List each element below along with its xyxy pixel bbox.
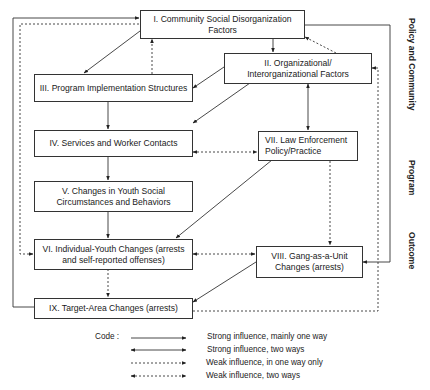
- side-label-outcome: Outcome: [407, 232, 417, 269]
- box-ii-label: II. Organizational/ Interorganizational …: [229, 58, 367, 80]
- legend-label-strong-two-ways: Strong influence, two ways: [207, 345, 304, 354]
- box-iv-services-worker-contacts: IV. Services and Worker Contacts: [34, 130, 193, 157]
- legend-label-weak-one-way: Weak influence, in one way only: [206, 358, 323, 367]
- arrow-ii-to-iii: [193, 67, 224, 88]
- box-i-label: I. Community Social Disorganization Fact…: [145, 14, 300, 36]
- box-iii-program-implementation: III. Program Implementation Structures: [34, 74, 193, 102]
- box-vi-label: VI. Individual-Youth Changes (arrests an…: [39, 244, 188, 266]
- box-ix-target-area-changes: IX. Target-Area Changes (arrests): [34, 298, 193, 319]
- box-ix-label: IX. Target-Area Changes (arrests): [49, 303, 178, 314]
- legend-label-strong-one-way: Strong influence, mainly one way: [207, 332, 327, 341]
- box-viii-label: VIII. Gang-as-a-Unit Changes (arrests): [261, 251, 358, 273]
- box-vii-law-enforcement: VII. Law Enforcement Policy/Practice: [258, 131, 358, 161]
- legend-title: Code :: [95, 332, 119, 341]
- box-vii-label: VII. Law Enforcement Policy/Practice: [265, 135, 353, 157]
- arrow-i-to-iii: [84, 31, 140, 73]
- box-iv-label: IV. Services and Worker Contacts: [49, 138, 177, 149]
- arrow-ii-to-iv: [193, 83, 250, 123]
- box-viii-gang-as-unit-changes: VIII. Gang-as-a-Unit Changes (arrests): [256, 246, 363, 278]
- box-v-label: V. Changes in Youth Social Circumstances…: [39, 186, 188, 208]
- arrow-ii-to-i-weak: [305, 37, 336, 53]
- box-ii-organizational-factors: II. Organizational/ Interorganizational …: [224, 53, 372, 84]
- arrow-viii-to-ix: [193, 262, 256, 302]
- box-v-changes-youth-social: V. Changes in Youth Social Circumstances…: [34, 181, 193, 212]
- side-label-policy-community: Policy and Community: [407, 18, 417, 111]
- side-label-program: Program: [407, 160, 417, 195]
- box-vi-individual-youth-changes: VI. Individual-Youth Changes (arrests an…: [34, 239, 193, 270]
- legend-label-weak-two-ways: Weak influence, two ways: [206, 371, 300, 380]
- box-iii-label: III. Program Implementation Structures: [40, 83, 188, 94]
- box-i-community-social-disorganization: I. Community Social Disorganization Fact…: [140, 10, 305, 39]
